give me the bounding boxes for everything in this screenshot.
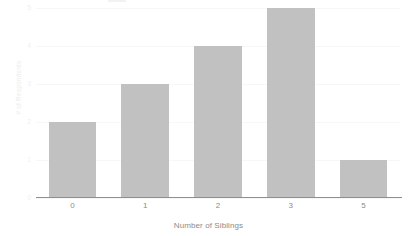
bar xyxy=(121,84,169,198)
plot-area: 012345 xyxy=(36,8,400,198)
bars-layer xyxy=(36,8,400,198)
x-axis-line xyxy=(36,197,402,198)
y-axis-title: # of Respondents xyxy=(15,34,22,142)
bar-chart: # of Respondents 012345 01235 Number of … xyxy=(0,0,417,236)
bar xyxy=(194,46,242,198)
bar xyxy=(267,8,315,198)
bar xyxy=(49,122,97,198)
y-axis-tick-label: 1 xyxy=(27,157,31,164)
y-axis-tick-label: 4 xyxy=(27,43,31,50)
x-axis-tick-label: 0 xyxy=(70,202,74,210)
y-axis-tick-label: 2 xyxy=(27,119,31,126)
y-axis-tick-label: 3 xyxy=(27,81,31,88)
bar xyxy=(340,160,388,198)
x-axis-tick-label: 1 xyxy=(143,202,147,210)
top-clipped-artifact xyxy=(108,0,126,2)
gridline xyxy=(36,198,400,199)
y-axis-tick-label: 0 xyxy=(27,195,31,202)
x-axis-tick-label: 3 xyxy=(289,202,293,210)
x-axis-tick-label: 2 xyxy=(216,202,220,210)
y-axis-tick-label: 5 xyxy=(27,5,31,12)
x-axis-title: Number of Siblings xyxy=(0,221,417,230)
x-axis-tick-label: 5 xyxy=(361,202,365,210)
